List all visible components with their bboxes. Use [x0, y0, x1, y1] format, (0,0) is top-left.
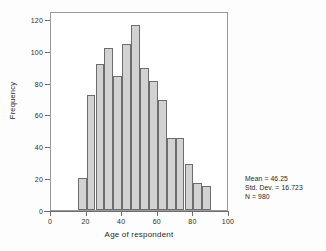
stat-n: N = 980	[245, 192, 303, 201]
y-axis-tick-label: 20	[35, 176, 43, 183]
x-axis: 020406080100	[50, 211, 228, 217]
histogram-bar	[193, 183, 202, 210]
histogram-bar	[131, 25, 140, 210]
x-axis-tick-label: 100	[222, 218, 234, 225]
y-axis-tick	[45, 20, 50, 21]
y-axis-tick-label: 40	[35, 144, 43, 151]
stat-mean: Mean = 46.25	[245, 174, 303, 183]
histogram-bar	[113, 76, 122, 210]
bar-series	[51, 13, 227, 210]
y-axis-tick	[45, 84, 50, 85]
histogram-bar	[158, 100, 167, 210]
x-axis-tick	[228, 211, 229, 216]
x-axis-tick-label: 80	[188, 218, 196, 225]
x-axis-tick	[86, 211, 87, 216]
y-axis-tick-label: 100	[31, 48, 43, 55]
x-axis-tick	[50, 211, 51, 216]
histogram-bar	[87, 95, 96, 210]
histogram-bar	[149, 81, 158, 210]
y-axis-tick-label: 60	[35, 112, 43, 119]
histogram-bar	[78, 178, 87, 210]
histogram-bar	[176, 138, 185, 210]
histogram-bar	[185, 164, 194, 210]
plot-area	[50, 12, 228, 211]
stat-std-dev: Std. Dev. = 16.723	[245, 183, 303, 192]
x-axis-tick	[157, 211, 158, 216]
x-axis-tick-label: 0	[48, 218, 52, 225]
histogram-figure: 020406080100120 020406080100 Age of resp…	[0, 0, 326, 251]
y-axis: 020406080100120	[44, 12, 50, 211]
y-axis-tick-label: 80	[35, 80, 43, 87]
histogram-bar	[104, 48, 113, 210]
x-axis-tick-label: 60	[153, 218, 161, 225]
histogram-bar	[140, 68, 149, 210]
x-axis-tick	[121, 211, 122, 216]
y-axis-tick	[45, 115, 50, 116]
histogram-bar	[167, 138, 176, 210]
y-axis-tick	[45, 52, 50, 53]
histogram-bar	[122, 44, 131, 210]
y-axis-tick	[45, 179, 50, 180]
x-axis-title: Age of respondent	[50, 230, 228, 239]
x-axis-tick-label: 40	[117, 218, 125, 225]
x-axis-tick	[192, 211, 193, 216]
histogram-bar	[202, 186, 211, 210]
statistics-annotation: Mean = 46.25 Std. Dev. = 16.723 N = 980	[245, 174, 303, 201]
y-axis-tick-label: 120	[31, 16, 43, 23]
y-axis-tick-label: 0	[39, 208, 43, 215]
histogram-bar	[96, 64, 105, 210]
x-axis-line	[44, 211, 228, 212]
y-axis-tick	[45, 147, 50, 148]
x-axis-tick-label: 20	[82, 218, 90, 225]
y-axis-title: Frequency	[8, 71, 17, 131]
